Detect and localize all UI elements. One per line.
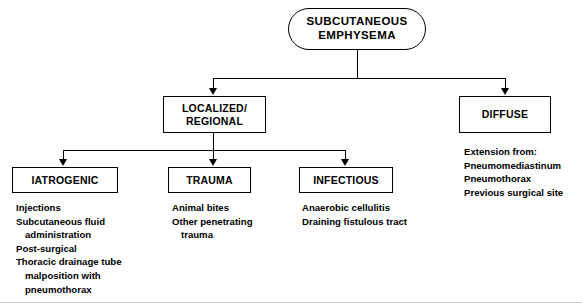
iatrogenic-detail-line-1: Injections xyxy=(16,201,122,215)
connector-level3-bus xyxy=(63,150,345,151)
diffuse-detail-line-1: Extension from: xyxy=(464,145,563,159)
node-trauma: TRAUMA xyxy=(168,167,251,193)
arrowhead-to-trauma-icon xyxy=(209,159,217,166)
iatrogenic-label: IATROGENIC xyxy=(31,174,98,186)
diffuse-detail-list: Extension from: Pneumomediastinum Pneumo… xyxy=(464,145,563,199)
localized-label-line-2: REGIONAL xyxy=(186,115,243,127)
iatrogenic-detail-list: Injections Subcutaneous fluid administra… xyxy=(16,201,122,296)
root-label-line-2: EMPHYSEMA xyxy=(318,29,396,41)
infectious-detail-list: Anaerobic cellulitis Draining fistulous … xyxy=(302,201,407,228)
iatrogenic-detail-line-7: pneumothorax xyxy=(16,283,122,297)
arrowhead-to-iatrogenic-icon xyxy=(59,159,67,166)
trauma-detail-line-1: Animal bites xyxy=(172,201,253,215)
diffuse-detail-line-4: Previous surgical site xyxy=(464,186,563,200)
infectious-label: INFECTIOUS xyxy=(313,174,379,186)
infectious-detail-line-2: Draining fistulous tract xyxy=(302,215,407,229)
infectious-detail-line-1: Anaerobic cellulitis xyxy=(302,201,407,215)
arrowhead-to-diffuse-icon xyxy=(501,88,509,95)
connector-level2-bus xyxy=(213,78,506,79)
node-subcutaneous-emphysema: SUBCUTANEOUS EMPHYSEMA xyxy=(288,8,426,50)
connector-root-stem xyxy=(357,50,358,79)
flowchart-canvas: SUBCUTANEOUS EMPHYSEMA LOCALIZED/ REGION… xyxy=(0,0,582,303)
trauma-detail-list: Animal bites Other penetrating trauma xyxy=(172,201,253,242)
trauma-detail-line-3: trauma xyxy=(172,228,253,242)
diffuse-label: DIFFUSE xyxy=(482,108,528,120)
iatrogenic-detail-line-5: Thoracic drainage tube xyxy=(16,255,122,269)
root-label-line-1: SUBCUTANEOUS xyxy=(306,15,407,27)
connector-localized-stem xyxy=(213,133,214,151)
iatrogenic-detail-line-4: Post-surgical xyxy=(16,242,122,256)
iatrogenic-detail-line-6: malposition with xyxy=(16,269,122,283)
iatrogenic-detail-line-3: administration xyxy=(16,228,122,242)
iatrogenic-detail-line-2: Subcutaneous fluid xyxy=(16,215,122,229)
arrowhead-to-localized-icon xyxy=(209,88,217,95)
node-label-stack: SUBCUTANEOUS EMPHYSEMA xyxy=(306,15,407,42)
node-infectious: INFECTIOUS xyxy=(299,167,393,193)
diffuse-detail-line-3: Pneumothorax xyxy=(464,172,563,186)
trauma-label: TRAUMA xyxy=(186,174,233,186)
arrowhead-to-infectious-icon xyxy=(341,159,349,166)
trauma-detail-line-2: Other penetrating xyxy=(172,215,253,229)
node-label-stack: LOCALIZED/ REGIONAL xyxy=(182,102,247,127)
diffuse-detail-line-2: Pneumomediastinum xyxy=(464,159,563,173)
localized-label-line-1: LOCALIZED/ xyxy=(182,102,247,114)
node-diffuse: DIFFUSE xyxy=(459,96,551,133)
node-localized-regional: LOCALIZED/ REGIONAL xyxy=(163,96,266,133)
node-iatrogenic: IATROGENIC xyxy=(12,167,118,193)
